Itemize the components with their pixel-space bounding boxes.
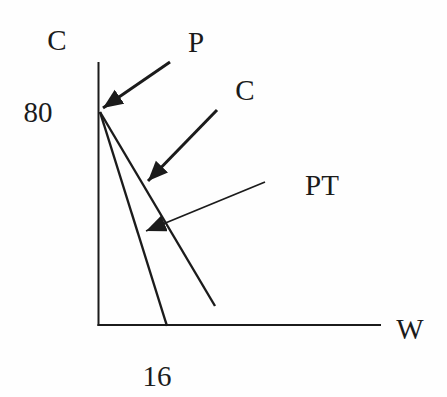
y-intercept-value: 80	[24, 96, 53, 128]
arrow-pt-icon	[146, 182, 265, 231]
arrow-pt-label: PT	[305, 169, 339, 201]
y-axis-label: C	[47, 24, 66, 56]
arrow-p-icon	[103, 62, 170, 108]
arrow-p-label: P	[188, 26, 204, 58]
arrow-c-icon	[148, 110, 217, 181]
arrow-c-label: C	[235, 74, 254, 106]
figure-canvas: C P 80 C PT W 16	[0, 0, 447, 397]
steep-budget-line	[100, 112, 167, 326]
x-axis-label: W	[396, 313, 424, 345]
budget-line-diagram: C P 80 C PT W 16	[0, 0, 447, 397]
x-intercept-value: 16	[143, 360, 172, 392]
